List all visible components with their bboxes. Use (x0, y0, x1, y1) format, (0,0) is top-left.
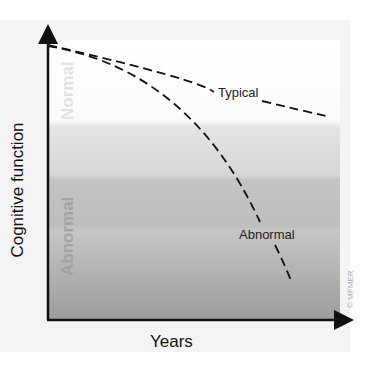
plot-background (48, 40, 340, 320)
x-axis-label: Years (150, 332, 193, 352)
diagram-canvas (0, 0, 374, 372)
copyright-notice: © MFMER (346, 271, 355, 308)
typical-curve-label: Typical (218, 85, 258, 100)
zone-label-abnormal: Abnormal (58, 197, 78, 276)
zone-label-normal: Normal (58, 61, 78, 120)
abnormal-curve-label: Abnormal (239, 227, 295, 242)
y-axis-label: Cognitive function (8, 110, 28, 270)
